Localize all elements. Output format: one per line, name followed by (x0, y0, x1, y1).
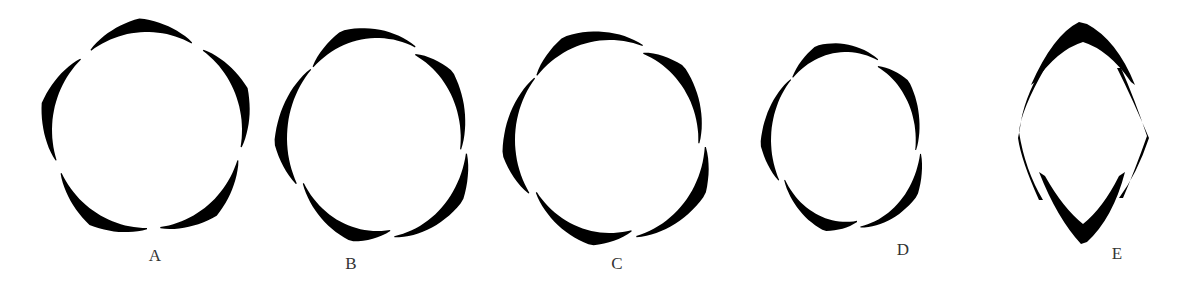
figure-label-b: B (345, 254, 356, 274)
petal-segment (42, 59, 82, 161)
petal-segment (313, 28, 416, 67)
petal-segment (415, 54, 465, 149)
petal-segment (394, 154, 468, 238)
petal-segment (643, 53, 702, 144)
figure-a (42, 18, 250, 232)
figure-b (275, 28, 469, 241)
petal-segment (1018, 66, 1045, 200)
figure-label-a: A (149, 246, 161, 266)
petal-segment (536, 192, 632, 245)
petal-segment (61, 173, 147, 232)
petal-segment (1039, 172, 1125, 244)
figure-d (761, 43, 922, 231)
petal-segment (761, 79, 791, 180)
petal-segment (784, 180, 857, 231)
figure-c (503, 32, 709, 246)
figure-e (1018, 22, 1149, 244)
petal-segment (203, 50, 250, 147)
petal-segment (303, 183, 391, 241)
petal-segment (536, 32, 643, 76)
petal-segment (878, 66, 920, 150)
figure-label-d: D (897, 240, 909, 260)
petal-segment (91, 18, 193, 50)
petal-segment (636, 147, 709, 237)
petal-segment (1031, 22, 1135, 85)
figure-label-c: C (611, 254, 622, 274)
figure-label-e: E (1112, 244, 1122, 264)
petal-segment (860, 154, 922, 228)
aestivation-diagram (0, 0, 1185, 282)
petal-segment (160, 160, 238, 229)
petal-segment (275, 69, 312, 184)
petal-segment (792, 43, 878, 78)
petal-segment (503, 78, 536, 194)
